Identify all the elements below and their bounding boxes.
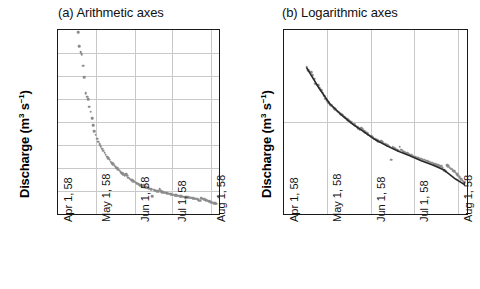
data-point: [84, 92, 87, 95]
x-tick-mark: [135, 214, 136, 215]
data-point: [151, 195, 154, 198]
y-tick-mark: [283, 214, 284, 215]
x-tick-mark: [458, 214, 459, 215]
data-point: [82, 65, 85, 68]
data-point: [77, 31, 80, 34]
panel-a-y-axis-label: Discharge (m3 s−1): [17, 90, 32, 198]
x-minor-tick-mark: [305, 214, 306, 215]
gridline-horizontal: [58, 122, 219, 123]
x-tick-label: Jun 1, 58: [375, 177, 387, 222]
data-point: [96, 137, 99, 140]
x-minor-tick-mark: [152, 214, 153, 215]
x-tick-label: May 1, 58: [100, 174, 112, 222]
x-tick-mark: [96, 214, 97, 215]
gridline-horizontal: [58, 145, 219, 146]
x-minor-tick-mark: [313, 214, 314, 215]
gridline-horizontal: [58, 99, 219, 100]
y-tick-label: 2.5: [57, 93, 58, 105]
data-point: [91, 117, 94, 120]
x-tick-label: Apr 1, 58: [62, 177, 74, 222]
x-minor-tick-mark: [127, 214, 128, 215]
x-tick-mark: [284, 214, 285, 215]
data-point: [92, 124, 95, 127]
x-minor-tick-mark: [83, 214, 84, 215]
data-point: [81, 53, 84, 56]
gridline-vertical: [135, 30, 136, 214]
x-minor-tick-mark: [196, 214, 197, 215]
x-tick-label: Aug 1, 58: [215, 175, 227, 222]
x-tick-label: Jun 1, 58: [139, 177, 151, 222]
x-minor-tick-mark: [320, 214, 321, 215]
y-tick-label: 3.5: [57, 47, 58, 59]
x-tick-mark: [172, 214, 173, 215]
y-tick-label: 2: [57, 116, 58, 128]
x-minor-tick-mark: [165, 214, 166, 215]
x-minor-tick-mark: [391, 214, 392, 215]
x-tick-label: Apr 1, 58: [288, 177, 300, 222]
x-tick-label: Jul 1, 58: [176, 180, 188, 222]
x-minor-tick-mark: [121, 214, 122, 215]
x-minor-tick-mark: [209, 214, 210, 215]
x-minor-tick-mark: [115, 214, 116, 215]
x-minor-tick-mark: [348, 214, 349, 215]
y-tick-label: 3: [57, 70, 58, 82]
data-point: [87, 98, 90, 101]
data-point: [89, 111, 92, 114]
x-minor-tick-mark: [190, 214, 191, 215]
x-minor-tick-mark: [441, 214, 442, 215]
x-minor-tick-mark: [203, 214, 204, 215]
y-tick-label: 4: [57, 29, 58, 36]
data-point: [88, 106, 91, 109]
gridline-vertical: [96, 30, 97, 214]
x-minor-tick-mark: [159, 214, 160, 215]
data-point: [78, 45, 81, 48]
data-point: [83, 76, 86, 79]
x-minor-tick-mark: [89, 214, 90, 215]
data-point: [93, 130, 96, 133]
x-minor-tick-mark: [77, 214, 78, 215]
x-tick-mark: [58, 214, 59, 215]
x-tick-label: Aug 1, 58: [462, 175, 474, 222]
y-tick-label: 0.5: [57, 185, 58, 197]
x-minor-tick-mark: [413, 214, 414, 215]
gridline-horizontal: [58, 168, 219, 169]
gridline-vertical: [172, 30, 173, 214]
x-tick-mark: [371, 214, 372, 215]
x-minor-tick-mark: [398, 214, 399, 215]
y-tick-mark: [57, 214, 58, 215]
y-tick-label: 1: [57, 162, 58, 174]
panel-arithmetic-axes: (a) Arithmetic axes Discharge (m3 s−1) 0…: [0, 0, 240, 289]
x-minor-tick-mark: [456, 214, 457, 215]
data-point: [94, 134, 97, 137]
x-tick-mark: [211, 214, 212, 215]
x-tick-label: May 1, 58: [331, 174, 343, 222]
x-minor-tick-mark: [434, 214, 435, 215]
x-tick-mark: [414, 214, 415, 215]
x-minor-tick-mark: [355, 214, 356, 215]
x-minor-tick-mark: [406, 214, 407, 215]
figure-container: (a) Arithmetic axes Discharge (m3 s−1) 0…: [0, 0, 480, 289]
x-tick-label: Jul 1, 58: [418, 180, 430, 222]
y-tick-label: 1.5: [57, 139, 58, 151]
x-minor-tick-mark: [363, 214, 364, 215]
panel-logarithmic-axes: (b) Logarithmic axes Discharge (m3 s−1) …: [240, 0, 480, 289]
x-minor-tick-mark: [448, 214, 449, 215]
panel-a-title: (a) Arithmetic axes: [58, 5, 164, 20]
x-minor-tick-mark: [171, 214, 172, 215]
x-minor-tick-mark: [370, 214, 371, 215]
gridline-vertical: [211, 30, 212, 214]
x-minor-tick-mark: [133, 214, 134, 215]
panel-b-title: (b) Logarithmic axes: [282, 5, 398, 20]
x-tick-mark: [327, 214, 328, 215]
panel-b-y-axis-label: Discharge (m3 s−1): [259, 90, 274, 198]
